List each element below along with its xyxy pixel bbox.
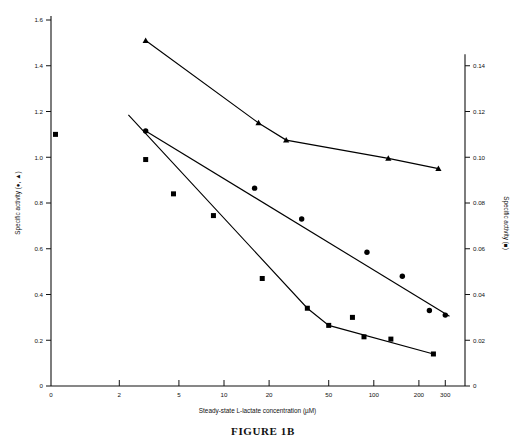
y-tick-label-right-3: 0.06 <box>473 245 486 252</box>
y-tick-label-right-4: 0.08 <box>473 199 486 206</box>
x-tick-label-7: 300 <box>440 391 451 398</box>
x-tick-label-6: 200 <box>414 391 425 398</box>
square-series-point-9 <box>388 337 393 342</box>
circle-series-point-2 <box>299 216 304 221</box>
square-series-point-5 <box>305 306 310 311</box>
y-tick-label-left-8: 1.6 <box>34 16 43 23</box>
x-tick-label-4: 50 <box>325 391 332 398</box>
circle-series-point-4 <box>400 274 405 279</box>
y-tick-label-right-2: 0.04 <box>473 291 486 298</box>
y-tick-label-left-1: 0.2 <box>34 337 43 344</box>
y-tick-label-left-3: 0.6 <box>34 245 43 252</box>
triangle-series-point-0 <box>143 37 149 42</box>
square-series-point-7 <box>350 315 355 320</box>
y-tick-label-right-1: 0.02 <box>473 337 486 344</box>
x-tick-label-2: 10 <box>221 391 228 398</box>
y-tick-label-left-2: 0.4 <box>34 291 43 298</box>
x-tick-label-0: 2 <box>118 391 122 398</box>
y-tick-label-left-6: 1.2 <box>34 108 43 115</box>
circle-series-point-5 <box>427 308 432 313</box>
circle-series-point-6 <box>443 312 448 317</box>
triangle-series-point-2 <box>283 137 289 142</box>
x-tick-label-3: 20 <box>266 391 273 398</box>
y-axis-left-title: Specific activity (●, ▲) <box>14 171 22 234</box>
circle-series-line <box>146 131 450 316</box>
x-axis-title: Steady-state L-lactate concentration (µM… <box>199 407 316 415</box>
y-tick-label-right-5: 0.10 <box>473 154 486 161</box>
y-tick-label-left-0: 0 <box>40 382 44 389</box>
square-series-line <box>128 115 433 354</box>
square-series-point-1 <box>143 157 148 162</box>
figure-caption: FIGURE 1B <box>0 425 526 437</box>
square-series-point-10 <box>431 351 436 356</box>
square-series-point-4 <box>260 276 265 281</box>
x-tick-label-5: 100 <box>369 391 380 398</box>
x-tick-label-origin: 0 <box>49 391 53 398</box>
circle-series-point-1 <box>252 185 257 190</box>
square-series-point-8 <box>361 334 366 339</box>
square-series-point-2 <box>171 191 176 196</box>
y-tick-label-left-4: 0.8 <box>34 199 43 206</box>
square-series-point-3 <box>211 213 216 218</box>
y-axis-right-title: Specific activity (■) <box>502 196 510 250</box>
scatter-plot: 00.20.40.60.81.01.21.41.6Specific activi… <box>0 0 526 418</box>
y-tick-label-left-7: 1.4 <box>34 62 43 69</box>
y-tick-label-right-0: 0 <box>473 382 477 389</box>
y-tick-label-right-6: 0.12 <box>473 108 486 115</box>
triangle-series-line <box>146 41 439 169</box>
x-tick-label-1: 5 <box>177 391 181 398</box>
y-tick-label-left-5: 1.0 <box>34 154 43 161</box>
circle-series-point-3 <box>364 249 369 254</box>
figure-1b: 00.20.40.60.81.01.21.41.6Specific activi… <box>0 0 526 443</box>
y-tick-label-right-7: 0.14 <box>473 62 486 69</box>
square-series-point-0 <box>53 132 58 137</box>
square-series-point-6 <box>326 323 331 328</box>
